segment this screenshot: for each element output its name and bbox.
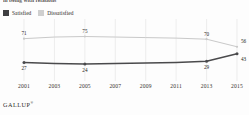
point-value-label: 27 [21, 66, 26, 71]
point-value-label: 75 [82, 29, 87, 34]
data-point-marker [236, 46, 238, 48]
chart-canvas [0, 19, 249, 81]
legend-item-label: Satisfied [12, 10, 31, 16]
point-value-label: 43 [241, 57, 246, 62]
x-axis-tick-label: 2007 [109, 82, 121, 90]
point-value-label: 71 [21, 31, 26, 36]
series-layer [23, 35, 239, 65]
source-attribution: GALLUP® [3, 99, 33, 109]
data-point-marker [205, 38, 207, 40]
gridlines [24, 19, 237, 81]
point-value-label: 70 [204, 32, 209, 37]
source-label: GALLUP [3, 101, 30, 108]
data-point-marker [84, 35, 86, 37]
x-axis-tick-label: 2001 [18, 82, 30, 90]
data-point-marker [236, 52, 239, 55]
plot-area: 7175705627242943 [0, 19, 249, 81]
legend-item-label: Dissatisfied [47, 10, 73, 16]
x-axis-tick-label: 2009 [140, 82, 152, 90]
chart-title-text: in being with relations [3, 0, 123, 3]
chart-figure: in being with relations Satisfied Dissat… [0, 0, 249, 115]
series-line-satisfied [24, 54, 237, 64]
chart-title-truncated: in being with relations [3, 0, 123, 7]
data-point-marker [205, 60, 208, 63]
x-axis-tick-label: 2015 [231, 82, 243, 90]
series-line-dissatisfied [24, 37, 237, 47]
point-value-label: 24 [82, 68, 87, 73]
point-value-label: 29 [204, 65, 209, 70]
chart-legend: Satisfied Dissatisfied [3, 10, 73, 16]
data-point-marker [23, 38, 25, 40]
legend-item-dissatisfied[interactable]: Dissatisfied [38, 10, 73, 16]
x-axis-tick-label: 2003 [48, 82, 60, 90]
point-value-label: 56 [241, 39, 246, 44]
data-point-marker [23, 61, 26, 64]
legend-swatch-icon [3, 10, 9, 16]
legend-swatch-icon [38, 10, 44, 16]
x-axis-tick-label: 2011 [170, 82, 182, 90]
x-axis-tick-label: 2005 [79, 82, 91, 90]
x-axis-tick-label: 2013 [201, 82, 213, 90]
legend-item-satisfied[interactable]: Satisfied [3, 10, 31, 16]
x-axis: 20012003200520072009201120132015 [0, 82, 249, 93]
data-point-marker [83, 63, 86, 66]
registered-trademark-icon: ® [30, 101, 33, 105]
